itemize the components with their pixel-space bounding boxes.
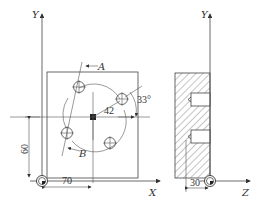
y-axis-label: Y — [32, 9, 40, 20]
x-axis-label: X — [148, 187, 157, 198]
bolt-circle-arc — [79, 84, 120, 99]
hole — [115, 92, 129, 106]
origin-symbol — [205, 176, 216, 187]
z-axis-label: Z — [241, 187, 250, 198]
label-a: A — [97, 61, 105, 72]
hole-section — [191, 130, 210, 143]
technical-drawing: Y X A — [0, 0, 266, 199]
hole-section — [191, 93, 210, 106]
angle-dim: 33° — [137, 94, 151, 105]
front-view: Y X A — [10, 9, 160, 198]
radius-dim: 42 — [104, 105, 114, 116]
origin-symbol — [37, 176, 48, 187]
label-b: B — [78, 148, 86, 159]
angle-arc — [130, 92, 136, 116]
section-line — [62, 62, 82, 156]
side-view: Y Z 30 — [175, 9, 250, 198]
dim-70: 70 — [62, 175, 72, 186]
bolt-circle-arc — [72, 110, 126, 152]
bolt-circle-arc — [63, 98, 68, 128]
dim-60: 60 — [19, 144, 30, 154]
hole — [72, 80, 86, 94]
section-hatched — [175, 73, 210, 178]
dim-30: 30 — [190, 177, 200, 188]
y-axis-side-label: Y — [201, 9, 209, 20]
hole — [103, 136, 117, 150]
part-outline — [47, 72, 138, 178]
